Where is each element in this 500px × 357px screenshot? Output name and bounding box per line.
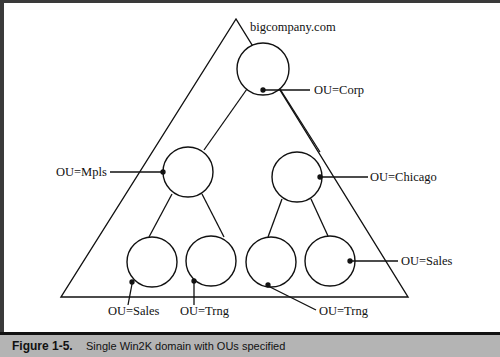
frame-top-border [0,0,500,3]
ou-node-corp [237,43,289,95]
ou-label-mpls: OU=Mpls [56,165,107,179]
ou-tree-diagram: bigcompany.com OU=Corp OU=Mpls OU=Chicag… [0,0,500,333]
ou-node-mpls-sales [127,237,177,287]
domain-label: bigcompany.com [250,20,336,34]
ou-node-mpls [163,147,213,197]
ou-label-chicago: OU=Chicago [370,170,437,184]
ou-label-chicago-trng: OU=Trng [319,304,369,318]
ou-node-chicago-trng [246,237,296,287]
figure-frame: bigcompany.com OU=Corp OU=Mpls OU=Chicag… [0,0,500,357]
frame-left-border [0,0,4,335]
ou-label-chicago-sales: OU=Sales [401,254,453,268]
figure-caption: Single Win2K domain with OUs specified [86,340,285,352]
ou-label-mpls-sales: OU=Sales [108,304,160,318]
ou-label-corp: OU=Corp [314,83,364,97]
figure-caption-bar: Figure 1-5. Single Win2K domain with OUs… [0,335,500,357]
ou-label-mpls-trng: OU=Trng [180,304,230,318]
diagram-area: bigcompany.com OU=Corp OU=Mpls OU=Chicag… [0,0,500,333]
ou-node-chicago [272,152,322,202]
figure-number: Figure 1-5. [12,339,73,353]
